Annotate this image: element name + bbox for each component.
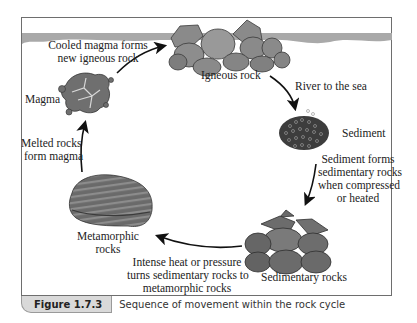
- label-line: River to the sea: [295, 80, 367, 92]
- label-line: rocks: [72, 243, 144, 256]
- caption-text: Sequence of movement within the rock cyc…: [112, 299, 345, 310]
- stage-metamorphic-rocks: Metamorphic rocks: [72, 230, 144, 256]
- figure-number: Figure 1.7.3: [34, 299, 102, 310]
- stage-sedimentary-rocks: Sedimentary rocks: [261, 271, 347, 284]
- figure-number-tab: Figure 1.7.3: [21, 296, 112, 313]
- sedimentary-rocks-icon: [245, 210, 331, 274]
- arrow-sedimentary-to-metamorphic: [158, 236, 242, 247]
- label-line: turns sedimentary rocks to: [127, 269, 247, 282]
- label-text: Sediment: [342, 127, 385, 139]
- label-line: Cooled magma forms: [48, 39, 148, 52]
- process-sediment-forms: Sediment forms sedimentary rocks when co…: [318, 153, 398, 205]
- label-line: Melted rocks: [21, 137, 83, 150]
- igneous-rock-icon: [169, 20, 290, 76]
- label-line: form magma: [21, 150, 83, 163]
- label-text: Igneous rock: [201, 69, 261, 81]
- stage-igneous-rock: Igneous rock: [201, 69, 261, 82]
- stage-magma: Magma: [25, 93, 60, 106]
- process-cooled-magma: Cooled magma forms new igneous rock: [48, 39, 148, 65]
- stage-sediment: Sediment: [342, 127, 385, 140]
- label-line: metamorphic rocks: [127, 282, 247, 295]
- magma-icon: [59, 73, 114, 115]
- label-line: new igneous rock: [48, 52, 148, 65]
- arrow-igneous-to-sediment: [270, 76, 295, 108]
- process-melted-rocks: Melted rocks form magma: [21, 137, 83, 163]
- label-line: or heated: [318, 192, 398, 205]
- label-text: Sedimentary rocks: [261, 271, 347, 283]
- label-text: Magma: [25, 93, 60, 105]
- process-heat-pressure: Intense heat or pressure turns sedimenta…: [127, 256, 247, 295]
- metamorphic-rock-icon: [69, 175, 152, 227]
- label-line: Metamorphic: [72, 230, 144, 243]
- sediment-icon: [279, 110, 329, 151]
- label-line: sedimentary rocks: [318, 166, 398, 179]
- figure-caption: Figure 1.7.3 Sequence of movement within…: [21, 296, 345, 313]
- label-line: Intense heat or pressure: [127, 256, 247, 269]
- label-line: when compressed: [318, 179, 398, 192]
- label-line: Sediment forms: [318, 153, 398, 166]
- process-river-to-sea: River to the sea: [295, 80, 367, 93]
- arrow-sediment-to-sedimentary: [306, 164, 316, 203]
